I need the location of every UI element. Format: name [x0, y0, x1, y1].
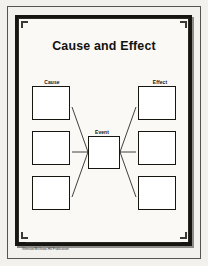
- publisher-credit: Glencoe/McGraw-Hill Publication: [22, 247, 69, 251]
- center-label-event: Event: [85, 129, 119, 135]
- cause-box-2[interactable]: [32, 131, 70, 165]
- effect-box-1[interactable]: [138, 86, 176, 120]
- cause-box-1[interactable]: [32, 86, 70, 120]
- corner-ornament-inner-bottom-right-icon: [180, 232, 187, 239]
- event-box[interactable]: [88, 136, 120, 169]
- effect-box-3[interactable]: [138, 176, 176, 210]
- corner-ornament-inner-top-left-icon: [21, 21, 28, 28]
- effect-box-2[interactable]: [138, 131, 176, 165]
- column-label-cause: Cause: [31, 79, 73, 85]
- worksheet-page: Cause and Effect Cause Event Effect Glen…: [0, 0, 208, 266]
- page-title: Cause and Effect: [29, 38, 180, 53]
- cause-box-3[interactable]: [32, 176, 70, 210]
- corner-ornament-inner-bottom-left-icon: [21, 232, 28, 239]
- column-label-effect: Effect: [139, 79, 181, 85]
- corner-ornament-inner-top-right-icon: [180, 21, 187, 28]
